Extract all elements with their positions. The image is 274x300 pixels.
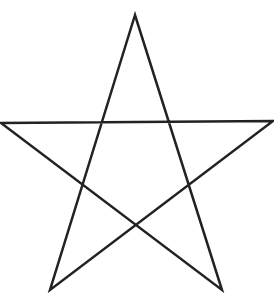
diagram-canvas [0, 0, 274, 300]
star-outline [1, 15, 273, 290]
pentagram-star-icon [0, 0, 274, 300]
